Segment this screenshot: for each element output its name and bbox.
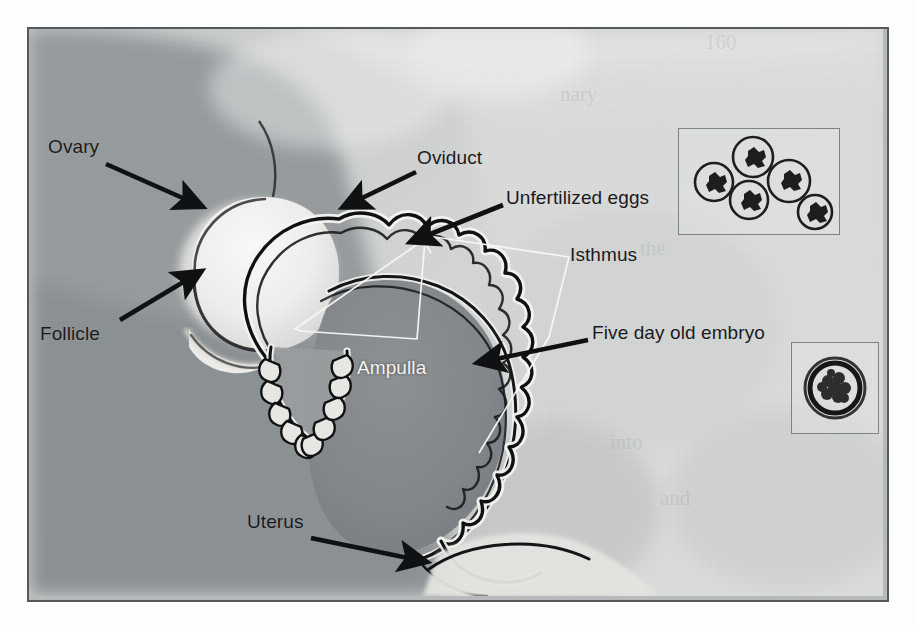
blastocyst-cells (817, 369, 851, 403)
unfertilized-eggs-drawing (679, 129, 839, 234)
label-isthmus: Isthmus (570, 245, 637, 265)
page-canvas: Ovary Oviduct Unfertilized eggs Isthmus … (0, 0, 915, 630)
inset-unfertilized-eggs (678, 128, 840, 235)
label-oviduct: Oviduct (417, 148, 482, 168)
label-ovary: Ovary (48, 137, 99, 157)
anatomy-illustration (29, 29, 883, 596)
label-unfertilized-eggs: Unfertilized eggs (506, 188, 649, 208)
label-ampulla: Ampulla (357, 358, 426, 378)
label-uterus: Uterus (247, 512, 304, 532)
label-follicle: Follicle (40, 324, 100, 344)
five-day-embryo-drawing (792, 343, 878, 433)
label-five-day-old-embryo: Five day old embryo (592, 323, 765, 343)
inset-five-day-embryo (791, 342, 879, 434)
figure-frame (27, 27, 889, 602)
